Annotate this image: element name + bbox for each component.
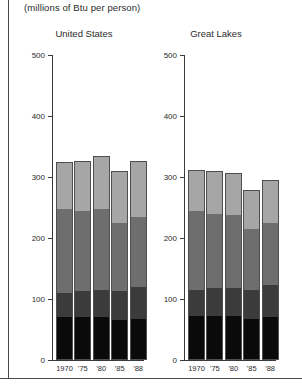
panel-title: United States bbox=[18, 28, 150, 39]
y-axis-tick-label: 300 bbox=[32, 173, 45, 182]
bar-segment bbox=[243, 229, 260, 289]
bar-segment bbox=[225, 288, 242, 316]
x-axis-baseline bbox=[52, 360, 144, 361]
bar-segment bbox=[56, 162, 73, 209]
x-axis-label: 1970 bbox=[56, 364, 73, 373]
y-axis-tick-label: 100 bbox=[164, 295, 177, 304]
y-axis-line bbox=[52, 55, 53, 361]
bar-segment bbox=[188, 316, 205, 360]
y-axis-tick-label: 0 bbox=[173, 356, 177, 365]
y-axis-tick-label: 200 bbox=[164, 234, 177, 243]
stacked-bar[interactable] bbox=[130, 161, 147, 360]
stacked-bar[interactable] bbox=[225, 173, 242, 360]
y-axis-tick bbox=[48, 55, 53, 56]
y-axis-tick-label: 400 bbox=[164, 112, 177, 121]
bar-segment bbox=[56, 209, 73, 293]
y-axis-tick-label: 200 bbox=[32, 234, 45, 243]
y-axis-tick bbox=[180, 177, 185, 178]
left-border-rule bbox=[8, 0, 9, 378]
y-axis-tick bbox=[180, 55, 185, 56]
x-axis-label: '80 bbox=[96, 364, 106, 373]
bar-segment bbox=[262, 223, 279, 285]
stacked-bar[interactable] bbox=[56, 162, 73, 360]
bar-segment bbox=[262, 180, 279, 223]
bar-segment bbox=[111, 320, 128, 360]
bar-segment bbox=[188, 290, 205, 316]
x-axis-label: '85 bbox=[115, 364, 125, 373]
y-axis-tick bbox=[180, 299, 185, 300]
bar-segment bbox=[93, 156, 110, 209]
bar-segment bbox=[93, 317, 110, 360]
bar-segment bbox=[262, 317, 279, 360]
panel-united-states: United States 50040030020010001970'75'80… bbox=[18, 0, 150, 391]
bar-segment bbox=[243, 190, 260, 229]
bar-segment bbox=[243, 319, 260, 360]
bar-segment bbox=[130, 161, 147, 217]
x-axis-label: '88 bbox=[265, 364, 275, 373]
bar-segment bbox=[74, 211, 91, 292]
y-axis-tick bbox=[180, 238, 185, 239]
panel-great-lakes: Great Lakes 50040030020010001970'75'80'8… bbox=[150, 0, 282, 391]
chart-page: (millions of Btu per person) United Stat… bbox=[0, 0, 302, 391]
y-axis-tick-label: 500 bbox=[164, 51, 177, 60]
stacked-bar[interactable] bbox=[262, 180, 279, 360]
bar-segment bbox=[225, 316, 242, 360]
y-axis-tick-label: 300 bbox=[164, 173, 177, 182]
stacked-bar[interactable] bbox=[188, 170, 205, 360]
y-axis-line bbox=[184, 55, 185, 361]
y-axis-tick bbox=[48, 299, 53, 300]
bar-segment bbox=[93, 209, 110, 290]
bar-segment bbox=[130, 217, 147, 287]
y-axis-tick bbox=[48, 116, 53, 117]
y-axis-tick bbox=[48, 177, 53, 178]
stacked-bar[interactable] bbox=[206, 171, 223, 360]
bar-segment bbox=[74, 291, 91, 317]
panel-title: Great Lakes bbox=[150, 28, 282, 39]
bar-segment bbox=[206, 316, 223, 360]
bar-segment bbox=[225, 215, 242, 288]
bar-segment bbox=[93, 290, 110, 317]
bar-segment bbox=[111, 171, 128, 223]
stacked-bar[interactable] bbox=[93, 156, 110, 360]
plot-area: 50040030020010001970'75'80'85'88 bbox=[184, 55, 280, 360]
bar-segment bbox=[74, 317, 91, 360]
stacked-bar[interactable] bbox=[243, 190, 260, 360]
bar-segment bbox=[56, 317, 73, 360]
bar-segment bbox=[130, 287, 147, 319]
bar-segment bbox=[225, 173, 242, 215]
x-axis-label: '88 bbox=[133, 364, 143, 373]
x-axis-label: '80 bbox=[228, 364, 238, 373]
bar-segment bbox=[206, 214, 223, 288]
x-axis-label: '85 bbox=[247, 364, 257, 373]
stacked-bar[interactable] bbox=[111, 171, 128, 360]
y-axis-tick-label: 0 bbox=[41, 356, 45, 365]
bar-segment bbox=[243, 290, 260, 319]
bar-segment bbox=[206, 288, 223, 316]
bar-segment bbox=[111, 291, 128, 320]
stacked-bar[interactable] bbox=[74, 161, 91, 360]
bar-segment bbox=[130, 319, 147, 360]
plot-area: 50040030020010001970'75'80'85'88 bbox=[52, 55, 148, 360]
bar-segment bbox=[188, 170, 205, 211]
bar-segment bbox=[56, 293, 73, 317]
x-axis-label: '75 bbox=[78, 364, 88, 373]
y-axis-tick-label: 400 bbox=[32, 112, 45, 121]
bar-segment bbox=[206, 171, 223, 214]
bar-segment bbox=[262, 285, 279, 317]
y-axis-tick bbox=[180, 116, 185, 117]
y-axis-tick bbox=[48, 238, 53, 239]
x-axis-baseline bbox=[184, 360, 276, 361]
y-axis-tick-label: 100 bbox=[32, 295, 45, 304]
bar-segment bbox=[74, 161, 91, 211]
bar-segment bbox=[188, 211, 205, 290]
y-axis-tick-label: 500 bbox=[32, 51, 45, 60]
bar-segment bbox=[111, 223, 128, 291]
x-axis-label: 1970 bbox=[188, 364, 205, 373]
x-axis-label: '75 bbox=[210, 364, 220, 373]
